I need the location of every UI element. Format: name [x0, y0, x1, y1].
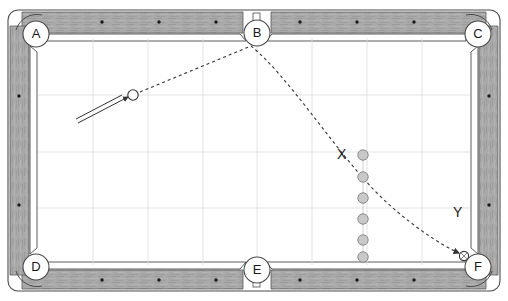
- pocket-label-F: F: [468, 260, 488, 273]
- cue-ball: [128, 90, 138, 100]
- table-frame: [8, 10, 500, 291]
- pocket-label-C: C: [468, 27, 488, 40]
- billiard-diagram: A B C D E F X Y: [0, 0, 508, 301]
- pocket-label-A: A: [26, 27, 46, 40]
- list-item: [358, 235, 368, 245]
- list-item: [358, 172, 368, 182]
- list-item: [358, 150, 368, 160]
- pocket-label-B: B: [247, 26, 267, 39]
- pocket-label-D: D: [26, 260, 46, 273]
- list-item: [358, 252, 368, 262]
- list-item: [358, 214, 368, 224]
- billiard-table-svg: [0, 0, 508, 301]
- pocket-label-E: E: [247, 263, 267, 276]
- marker-label-x: X: [337, 146, 346, 162]
- list-item: [358, 193, 368, 203]
- marker-label-y: Y: [453, 204, 462, 220]
